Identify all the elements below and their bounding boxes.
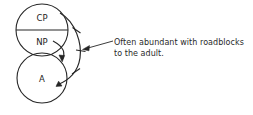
annotation-callout: Often abundant with roadblocks to the ad… bbox=[114, 37, 253, 59]
label-a: A bbox=[39, 74, 45, 84]
annotation-line-2: to the adult. bbox=[114, 48, 253, 59]
diagram-canvas: CP NP A Often abundant with roadblocks t… bbox=[0, 0, 253, 115]
label-np: NP bbox=[36, 37, 47, 47]
callout-leader-line bbox=[88, 41, 113, 48]
arc-tick-mark-2 bbox=[76, 50, 86, 52]
annotation-line-1: Often abundant with roadblocks bbox=[114, 37, 253, 48]
label-cp: CP bbox=[36, 13, 47, 23]
callout-leader-arrowhead bbox=[83, 46, 90, 51]
